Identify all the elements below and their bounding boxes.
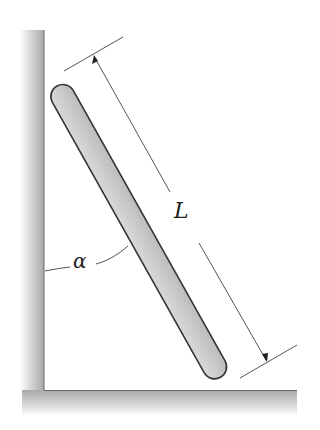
- extension-line-top: [64, 37, 123, 71]
- floor: [22, 390, 297, 416]
- bar: [47, 80, 231, 383]
- wall: [20, 30, 44, 392]
- diagram-canvas: [0, 0, 320, 430]
- length-label: L: [174, 198, 189, 223]
- extension-line-bottom: [240, 345, 297, 378]
- angle-label: α: [73, 249, 87, 273]
- arrowhead-bottom: [262, 353, 268, 362]
